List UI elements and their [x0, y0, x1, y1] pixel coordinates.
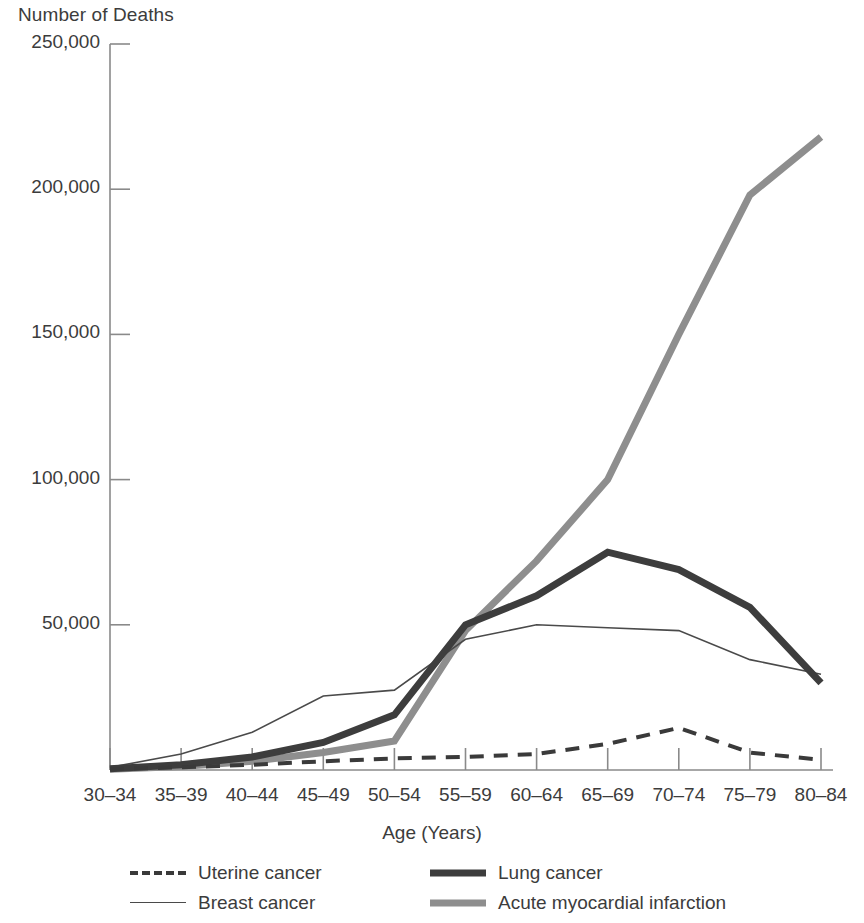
- x-tick-label: 50–54: [368, 784, 421, 806]
- x-tick-label: 70–74: [652, 784, 705, 806]
- x-tick-label: 30–34: [84, 784, 137, 806]
- x-tick-label: 55–59: [439, 784, 492, 806]
- series-line-breast-cancer: [110, 625, 821, 768]
- y-tick-label: 200,000: [4, 176, 100, 198]
- legend-swatch-thick-dark-icon: [430, 866, 486, 880]
- legend-item-lung-cancer: Lung cancer: [430, 862, 830, 884]
- legend-label-lung-cancer: Lung cancer: [498, 862, 603, 884]
- legend-swatch-thin-icon: [130, 896, 186, 910]
- x-tick-label: 35–39: [155, 784, 208, 806]
- x-tick-label: 80–84: [795, 784, 848, 806]
- legend-swatch-dashed-icon: [130, 866, 186, 880]
- y-tick-label: 100,000: [4, 467, 100, 489]
- chart-legend: Uterine cancer Lung cancer Breast cancer…: [130, 858, 830, 918]
- x-tick-label: 75–79: [723, 784, 776, 806]
- legend-label-uterine-cancer: Uterine cancer: [198, 862, 322, 884]
- y-tick-label: 50,000: [4, 612, 100, 634]
- series-line-lung-cancer: [110, 552, 821, 769]
- legend-item-breast-cancer: Breast cancer: [130, 892, 430, 914]
- x-tick-label: 60–64: [510, 784, 563, 806]
- y-tick-label: 150,000: [4, 321, 100, 343]
- legend-label-acute-myocardial-infarction: Acute myocardial infarction: [498, 892, 726, 914]
- x-tick-label: 45–49: [297, 784, 350, 806]
- legend-item-uterine-cancer: Uterine cancer: [130, 862, 430, 884]
- x-tick-label: 40–44: [226, 784, 279, 806]
- x-axis-title: Age (Years): [0, 822, 864, 844]
- chart-figure: Number of Deaths Age (Years) Uterine can…: [0, 0, 864, 923]
- series-line-acute-myocardial-infarction: [110, 137, 821, 769]
- x-tick-label: 65–69: [581, 784, 634, 806]
- y-tick-label: 250,000: [4, 31, 100, 53]
- legend-item-acute-myocardial-infarction: Acute myocardial infarction: [430, 892, 830, 914]
- legend-label-breast-cancer: Breast cancer: [198, 892, 315, 914]
- legend-swatch-thick-gray-icon: [430, 896, 486, 910]
